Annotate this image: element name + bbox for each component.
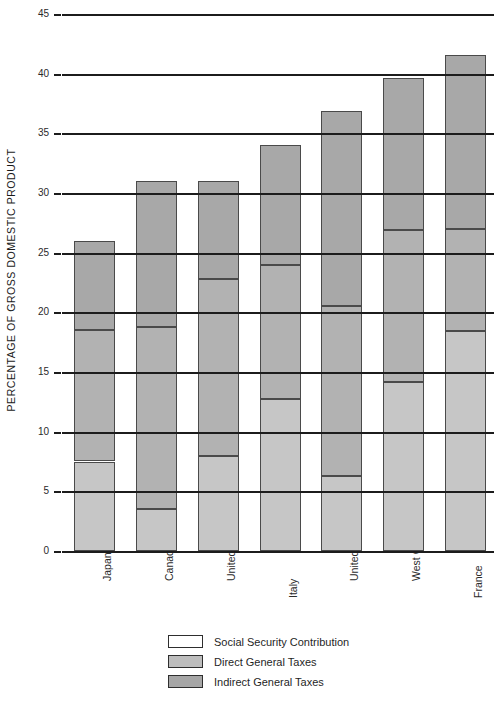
y-tick-label: 30 — [15, 188, 49, 198]
bar-segment-indirect-general-taxes — [321, 111, 362, 307]
legend-item[interactable]: Social Security Contribution — [168, 633, 428, 650]
legend-label: Direct General Taxes — [214, 656, 317, 668]
gridline-40 — [62, 74, 494, 76]
bar-segment-direct-general-taxes — [445, 229, 486, 332]
gridline-5 — [62, 491, 494, 493]
legend-swatch-social-security-contribution — [168, 635, 203, 648]
bar-segment-direct-general-taxes — [74, 330, 115, 461]
y-tick-30 — [54, 193, 61, 195]
bar-united-states[interactable] — [198, 14, 239, 551]
bar-segment-social-security-contribution — [321, 476, 362, 551]
y-tick-label: 45 — [15, 9, 49, 19]
y-tick-15 — [54, 372, 61, 374]
bar-segment-direct-general-taxes — [136, 327, 177, 510]
legend-label: Social Security Contribution — [214, 636, 349, 648]
y-tick-35 — [54, 133, 61, 135]
legend-item[interactable]: Direct General Taxes — [168, 653, 428, 670]
legend-swatch-indirect-general-taxes — [168, 675, 203, 688]
gridline-45 — [62, 14, 494, 16]
bar-italy[interactable] — [260, 14, 301, 551]
legend-label: Indirect General Taxes — [214, 676, 324, 688]
gridline-30 — [62, 193, 494, 195]
plot-area: 051015202530354045JapanCanadaUnited Stat… — [62, 14, 494, 551]
bar-france[interactable] — [445, 14, 486, 551]
bar-segment-indirect-general-taxes — [198, 181, 239, 279]
bar-segment-indirect-general-taxes — [260, 145, 301, 264]
bar-segment-social-security-contribution — [260, 399, 301, 551]
y-tick-label: 5 — [15, 486, 49, 496]
bar-segment-social-security-contribution — [198, 456, 239, 551]
gridline-0 — [62, 551, 494, 553]
y-tick-40 — [54, 74, 61, 76]
y-tick-label: 15 — [15, 367, 49, 377]
gridline-10 — [62, 432, 494, 434]
y-tick-25 — [54, 253, 61, 255]
gridline-15 — [62, 372, 494, 374]
y-tick-label: 10 — [15, 427, 49, 437]
y-tick-label: 20 — [15, 307, 49, 317]
bar-segment-direct-general-taxes — [198, 279, 239, 456]
y-tick-5 — [54, 491, 61, 493]
stacked-bar-chart: PERCENTAGE OF GROSS DOMESTIC PRODUCT 051… — [0, 0, 500, 702]
y-tick-20 — [54, 312, 61, 314]
y-tick-label: 35 — [15, 128, 49, 138]
y-tick-label: 0 — [15, 546, 49, 556]
y-axis-title: PERCENTAGE OF GROSS DOMESTIC PRODUCT — [0, 0, 22, 560]
bar-segment-indirect-general-taxes — [383, 78, 424, 230]
y-tick-0 — [54, 551, 61, 553]
bar-united-kingdom[interactable] — [321, 14, 362, 551]
y-tick-label: 40 — [15, 69, 49, 79]
legend-item[interactable]: Indirect General Taxes — [168, 673, 428, 690]
y-tick-10 — [54, 432, 61, 434]
gridline-35 — [62, 133, 494, 135]
bar-segment-social-security-contribution — [136, 509, 177, 551]
chart-legend: Social Security Contribution Direct Gene… — [168, 633, 428, 693]
gridline-25 — [62, 253, 494, 255]
bar-segment-indirect-general-taxes — [445, 55, 486, 229]
bar-segment-social-security-contribution — [383, 382, 424, 551]
bar-segment-social-security-contribution — [445, 331, 486, 551]
bar-japan[interactable] — [74, 14, 115, 551]
bar-west-germany[interactable] — [383, 14, 424, 551]
y-tick-45 — [54, 14, 61, 16]
legend-swatch-direct-general-taxes — [168, 655, 203, 668]
bar-canada[interactable] — [136, 14, 177, 551]
bar-segment-direct-general-taxes — [260, 265, 301, 400]
bar-segment-direct-general-taxes — [321, 306, 362, 475]
y-tick-label: 25 — [15, 248, 49, 258]
bar-segment-social-security-contribution — [74, 462, 115, 552]
gridline-20 — [62, 312, 494, 314]
